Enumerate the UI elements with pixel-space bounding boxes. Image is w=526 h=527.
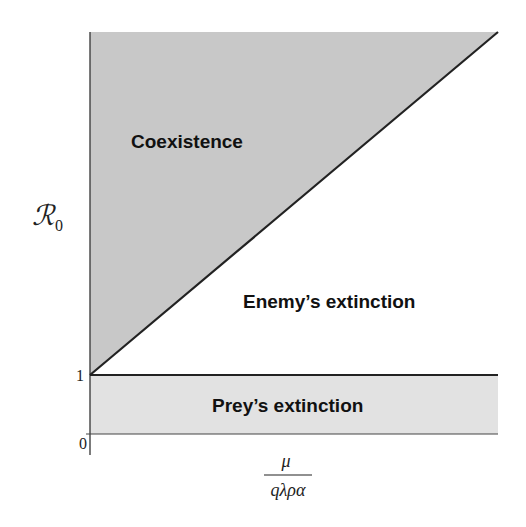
x-axis-label-numerator: μ xyxy=(280,451,290,471)
prey-extinction-label: Prey’s extinction xyxy=(212,395,363,416)
x-axis-label-denominator: qλρα xyxy=(271,480,306,500)
coexistence-label: Coexistence xyxy=(131,131,243,152)
phase-diagram: Coexistence Enemy’s extinction Prey’s ex… xyxy=(0,0,526,527)
y-tick-1: 1 xyxy=(76,367,84,384)
y-axis-label-subscript: 0 xyxy=(55,217,63,234)
y-axis-label: ℛ xyxy=(32,199,56,232)
y-tick-0: 0 xyxy=(79,435,87,452)
enemy-extinction-label: Enemy’s extinction xyxy=(243,291,415,312)
